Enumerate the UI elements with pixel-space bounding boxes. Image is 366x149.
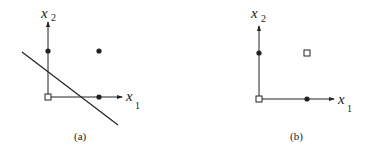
y-axis-label-b: x (250, 5, 258, 21)
y-axis-sub-b: 2 (261, 13, 266, 24)
decision-line-a (22, 52, 118, 125)
figure: x 2 x 1 (a) x 2 x 1 (b) (0, 0, 366, 149)
caption-a: (a) (74, 130, 87, 143)
filled-point-b-01 (256, 50, 261, 55)
caption-b: (b) (290, 130, 303, 143)
x-axis-sub-b: 1 (347, 103, 352, 114)
hollow-square-a-00 (45, 94, 51, 100)
x-axis-sub-a: 1 (135, 100, 140, 111)
hollow-square-b-11 (304, 50, 310, 56)
filled-point-a-10 (96, 94, 101, 99)
x-axis-label-a: x (125, 88, 133, 104)
hollow-square-b-00 (256, 96, 262, 102)
x-axis-label-b: x (337, 91, 345, 107)
y-axis-label-a: x (40, 5, 48, 21)
panel-a: x 2 x 1 (a) (22, 5, 140, 143)
filled-point-a-01 (45, 48, 50, 53)
panel-b: x 2 x 1 (b) (250, 5, 352, 143)
filled-point-b-10 (304, 96, 309, 101)
filled-point-a-11 (96, 48, 101, 53)
y-axis-sub-a: 2 (51, 12, 56, 23)
